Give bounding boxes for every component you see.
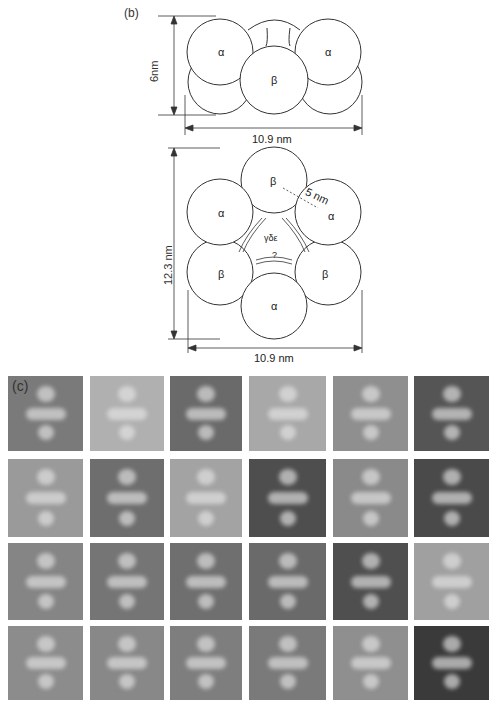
top-alpha-right: α xyxy=(328,210,334,222)
micrograph-cell xyxy=(414,543,489,620)
top-alpha-bottom: α xyxy=(271,300,277,312)
micrograph-cell xyxy=(333,543,408,620)
top-height-label: 12.3 nm xyxy=(162,245,174,285)
micrograph-cell xyxy=(333,376,408,451)
micrograph-cell xyxy=(249,459,326,537)
center-label: γδε xyxy=(264,233,278,243)
side-alpha-right: α xyxy=(325,46,331,58)
micrograph-cell xyxy=(170,376,242,451)
side-alpha-left: α xyxy=(218,46,224,58)
side-beta: β xyxy=(271,74,277,86)
side-height-label: 6nm xyxy=(148,61,160,82)
micrograph-cell xyxy=(170,626,242,700)
panel-b-label: (b) xyxy=(124,6,139,20)
question-label: ? xyxy=(272,250,277,260)
micrograph-cell xyxy=(414,626,489,700)
micrograph-cell xyxy=(90,626,164,700)
micrograph-cell xyxy=(170,459,242,537)
micrograph-cell xyxy=(333,626,408,700)
micrograph-cell xyxy=(8,626,83,700)
micrograph-cell xyxy=(333,459,408,537)
top-alpha-left: α xyxy=(218,207,224,219)
micrograph-cell xyxy=(170,543,242,620)
micrograph-cell xyxy=(90,459,164,537)
top-beta-top: β xyxy=(270,175,276,187)
micrograph-cell xyxy=(249,543,326,620)
micrograph-cell xyxy=(249,626,326,700)
micrograph-cell xyxy=(90,376,164,451)
micrograph-cell xyxy=(8,543,83,620)
top-beta-left: β xyxy=(218,268,224,280)
panel-c-label: (c) xyxy=(12,378,28,394)
side-view-diagram xyxy=(140,0,380,140)
top-width-label: 10.9 nm xyxy=(254,352,294,364)
micrograph-cell xyxy=(414,376,489,451)
micrograph-cell xyxy=(90,543,164,620)
top-beta-right: β xyxy=(322,268,328,280)
micrograph-cell xyxy=(8,459,83,537)
micrograph-cell xyxy=(414,459,489,537)
top-view-diagram xyxy=(140,140,380,375)
micrograph-cell xyxy=(249,376,326,451)
